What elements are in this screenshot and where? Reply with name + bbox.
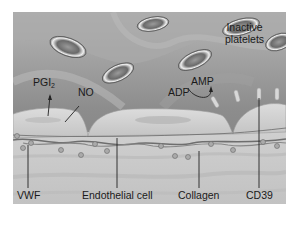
no-label: NO	[78, 87, 94, 98]
pgi2-label-main: PGI	[33, 76, 51, 88]
inactive-platelets-label: Inactive platelets	[225, 21, 264, 45]
amp-label: AMP	[191, 76, 214, 87]
pgi2-label: PGI2	[33, 77, 55, 89]
pgi2-label-subscript: 2	[51, 82, 55, 89]
nucleus	[135, 116, 191, 124]
endothelial-cell-label: Endothelial cell	[82, 190, 153, 201]
cd39-label: CD39	[246, 190, 273, 201]
inactive-platelets-label-line2: platelets	[225, 33, 264, 45]
vwf-label: VWF	[17, 190, 40, 201]
vascular-endothelium-diagram: Inactive platelets PGI2 NO AMP ADP VWF E…	[13, 12, 286, 204]
collagen-label: Collagen	[178, 190, 219, 201]
nucleus	[25, 117, 61, 123]
inactive-platelets-label-line1: Inactive	[225, 21, 264, 33]
adp-label: ADP	[168, 87, 190, 98]
